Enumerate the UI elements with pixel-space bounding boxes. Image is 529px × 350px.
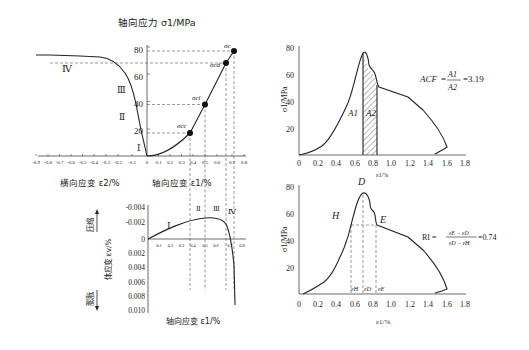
area-A1-label: A1: [347, 108, 358, 118]
svg-text:0.4: 0.4: [331, 159, 341, 168]
svg-text:0.4: 0.4: [190, 243, 196, 248]
svg-text:-0.9: -0.9: [32, 160, 40, 165]
acf-value: =3.19: [463, 74, 484, 84]
epsilon-H-label: εH: [351, 285, 359, 292]
sigma-cd-label: σcd: [210, 61, 221, 69]
svg-text:-0.3: -0.3: [102, 160, 110, 165]
x-ticks: 0 0.2 0.4 0.6 0.8 1.0 1.2 1.4 1.6 1.8: [297, 300, 470, 309]
y-axis-label: σ1/MPa: [280, 86, 289, 112]
sigma-cc-label: σcc: [177, 122, 188, 130]
axial-strain-curve: [147, 51, 234, 156]
arrow-up-icon: [95, 209, 99, 214]
svg-text:-0.8: -0.8: [44, 160, 52, 165]
sigma-c-point: [231, 48, 237, 54]
svg-text:0.8: 0.8: [241, 160, 248, 165]
svg-text:1.6: 1.6: [442, 300, 452, 309]
svg-text:0.7: 0.7: [227, 243, 233, 248]
area-A2-hatch: [363, 56, 377, 155]
ri-numerator: εE − εD: [449, 230, 469, 236]
lateral-strain-curve: [36, 55, 147, 156]
figure-canvas: 轴向应力 σ1/MPa 80 60 40 20 -0.9 -0.8 -0.7 -…: [0, 0, 529, 350]
svg-text:-0.002: -0.002: [126, 218, 146, 227]
svg-text:0.004: 0.004: [128, 263, 145, 272]
sigma-cc-point: [187, 130, 193, 136]
svg-text:0.2: 0.2: [313, 159, 323, 168]
epsilon-D-label: εD: [364, 285, 372, 292]
svg-text:-0.2: -0.2: [114, 160, 122, 165]
x-ticks: -0.9 -0.8 -0.7 -0.6 -0.5 -0.4 -0.3 -0.2 …: [32, 160, 248, 165]
svg-text:-0.7: -0.7: [56, 160, 64, 165]
y-tick-60: 60: [134, 72, 144, 82]
y-ticks: -0.004 -0.002 0 0.002 0.004 0.006 0.008 …: [126, 203, 146, 315]
stage-IV-label: Ⅳ: [62, 63, 73, 74]
stage-I-label: Ⅰ: [137, 143, 141, 153]
svg-text:1.8: 1.8: [460, 300, 470, 309]
svg-text:1.0: 1.0: [386, 159, 396, 168]
x-axis-label: ε1/%: [376, 318, 390, 326]
svg-text:0.6: 0.6: [350, 300, 360, 309]
svg-text:-0.4: -0.4: [90, 160, 98, 165]
stress-strain-curve: [303, 193, 447, 294]
sigma-cd-point: [223, 60, 229, 66]
svg-text:80: 80: [286, 44, 294, 53]
area-A2-label: A2: [365, 108, 376, 118]
arrow-down-icon: [95, 306, 99, 311]
svg-text:0.006: 0.006: [128, 278, 145, 287]
point-E-label: E: [379, 214, 386, 225]
svg-text:1.4: 1.4: [423, 300, 433, 309]
svg-text:-0.6: -0.6: [67, 160, 75, 165]
svg-text:0.010: 0.010: [128, 306, 145, 315]
svg-text:0.3: 0.3: [178, 160, 185, 165]
acf-numerator: A1: [447, 70, 457, 79]
y-axis-label: σ1/MPa: [280, 226, 289, 252]
svg-text:0: 0: [297, 300, 301, 309]
svg-text:60: 60: [286, 210, 294, 219]
volumetric-strain-curve: [148, 218, 235, 305]
svg-text:0: 0: [141, 235, 145, 244]
sigma-ci-point: [202, 102, 208, 108]
svg-text:0.4: 0.4: [331, 300, 341, 309]
axial-strain-label: 轴向应变 ε1/%: [166, 316, 221, 326]
svg-text:20: 20: [286, 264, 294, 273]
svg-text:1.2: 1.2: [405, 300, 415, 309]
svg-text:0.008: 0.008: [128, 292, 145, 301]
svg-text:0.002: 0.002: [128, 249, 145, 258]
volumetric-strain-label: 体应变 εv/%: [103, 238, 113, 280]
ri-value: =0.74: [478, 233, 497, 242]
stage-III-label: Ⅲ: [117, 85, 126, 95]
svg-text:0.2: 0.2: [168, 243, 174, 248]
y-tick-80: 80: [134, 45, 144, 55]
svg-text:0.8: 0.8: [239, 243, 245, 248]
svg-text:0.8: 0.8: [368, 159, 378, 168]
lateral-strain-label: 横向应变 ε2/%: [60, 178, 120, 188]
sigma-ci-label: σci: [192, 94, 201, 102]
stage-III-label: Ⅲ: [213, 205, 220, 213]
svg-text:0.3: 0.3: [179, 243, 185, 248]
axial-strain-label: 轴向应变 ε1/%: [152, 178, 212, 188]
x-ticks: 0 0.2 0.4 0.6 0.8 1.0 1.2 1.4 1.6 1.8: [297, 159, 470, 168]
expand-label: 膨胀: [85, 291, 95, 306]
sigma-c-label: σc: [224, 42, 231, 50]
stage-I-label: Ⅰ: [167, 221, 171, 231]
svg-text:1.8: 1.8: [460, 159, 470, 168]
ri-lhs: RI =: [422, 233, 437, 242]
point-H-label: H: [331, 210, 340, 221]
svg-text:1.4: 1.4: [423, 159, 433, 168]
svg-text:0.1: 0.1: [155, 160, 162, 165]
acf-lhs: ACF: [419, 74, 438, 84]
stage-IV-label: Ⅳ: [228, 207, 237, 216]
svg-text:-0.004: -0.004: [126, 203, 146, 212]
svg-text:1.2: 1.2: [405, 159, 415, 168]
svg-text:1.6: 1.6: [442, 159, 452, 168]
svg-text:0.2: 0.2: [313, 300, 323, 309]
svg-text:20: 20: [286, 125, 294, 134]
epsilon-E-label: εE: [378, 285, 385, 292]
bottom-right-chart: 20 40 60 80 0 0.2 0.4 0.6 0.8 1.0 1.2 1.…: [280, 176, 497, 326]
svg-text:0: 0: [297, 159, 301, 168]
bottom-left-chart: -0.004 -0.002 0 0.002 0.004 0.006 0.008 …: [85, 203, 246, 326]
stage-II-label: Ⅱ: [196, 205, 201, 213]
stage-II-label: Ⅱ: [119, 112, 125, 122]
svg-text:0.8: 0.8: [368, 300, 378, 309]
svg-text:0.4: 0.4: [190, 160, 197, 165]
svg-text:-0.5: -0.5: [79, 160, 87, 165]
